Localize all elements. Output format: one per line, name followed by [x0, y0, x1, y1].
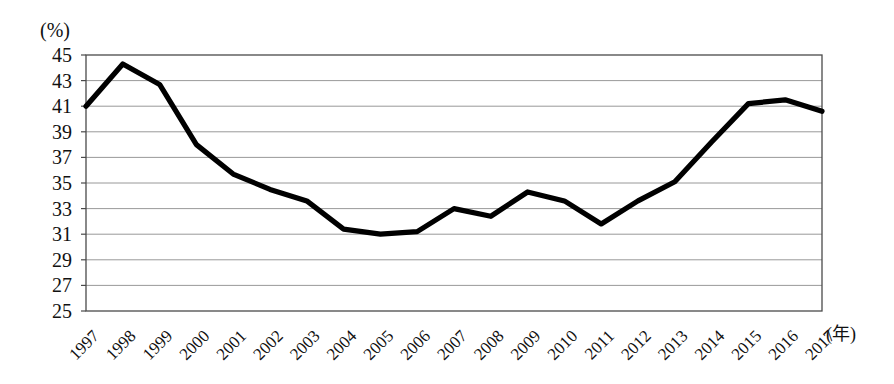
chart-container: (%) 4543413937353331292725 1997199819992… [0, 0, 894, 384]
y-axis-tick-labels: 4543413937353331292725 [52, 44, 72, 322]
y-tick-label: 29 [52, 249, 72, 271]
y-tick-label: 37 [52, 146, 72, 168]
y-tick-label: 35 [52, 172, 72, 194]
y-axis-unit-label: (%) [40, 19, 70, 42]
x-axis-unit-label: (年) [826, 324, 856, 345]
y-tick-label: 25 [52, 300, 72, 322]
y-tick-label: 41 [52, 95, 72, 117]
y-tick-label: 43 [52, 70, 72, 92]
y-tick-label: 31 [52, 223, 72, 245]
y-tick-label: 33 [52, 198, 72, 220]
y-tick-label: 39 [52, 121, 72, 143]
y-tick-label: 45 [52, 44, 72, 66]
chart-background [0, 0, 894, 384]
line-chart: (%) 4543413937353331292725 1997199819992… [0, 0, 894, 384]
y-tick-label: 27 [52, 274, 72, 296]
